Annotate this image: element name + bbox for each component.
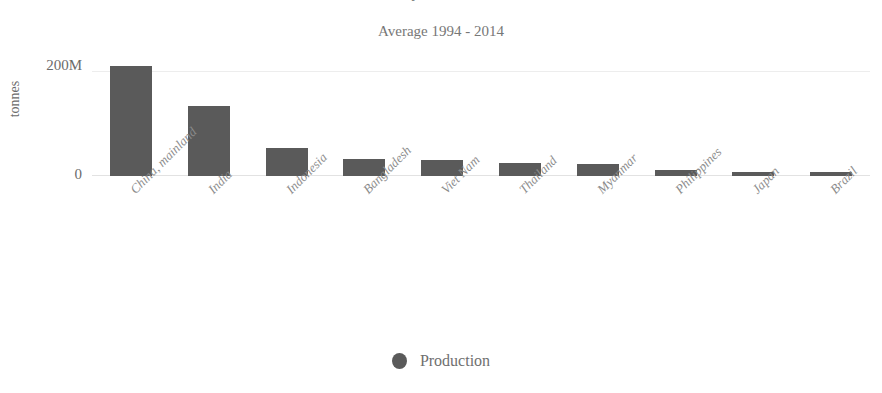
y-axis-title-wrap: tonnes (4, 55, 26, 176)
legend-item-production[interactable]: Production (392, 352, 490, 370)
chart-title-text: Rice Paddy Production (0, 0, 882, 1)
chart-canvas: Rice Paddy Production Average 1994 - 201… (0, 0, 882, 393)
legend-label: Production (420, 352, 490, 370)
legend-marker-circle-icon (392, 353, 407, 369)
chart-subtitle: Average 1994 - 2014 (0, 23, 882, 40)
bar[interactable] (110, 66, 152, 176)
plot-area (92, 55, 870, 176)
y-axis-title: tonnes (7, 64, 23, 134)
gridline-200m (92, 71, 870, 72)
clipped-chart-title: Rice Paddy Production (0, 0, 882, 14)
y-tick-label-0: 0 (12, 167, 82, 182)
y-tick-label-200m: 200M (12, 58, 82, 73)
chart-legend: Production (0, 352, 882, 370)
